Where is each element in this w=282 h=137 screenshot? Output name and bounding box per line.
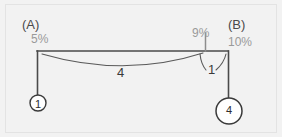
- percent-label-middle: 9%: [192, 27, 209, 39]
- support-label-a: (A): [22, 18, 39, 31]
- support-label-b: (B): [228, 18, 245, 31]
- short-span-arc-left: [200, 54, 206, 70]
- diagram-figure: (A) (B) 5% 9% 10% 4 1 1 4: [0, 0, 282, 137]
- percent-label-right: 10%: [228, 36, 252, 48]
- node-left-label: 1: [30, 99, 46, 110]
- long-span-arc: [42, 53, 203, 66]
- span-label-long: 4: [117, 66, 124, 79]
- short-span-arc-right: [216, 54, 226, 70]
- percent-label-left: 5%: [31, 33, 48, 45]
- node-right-label: 4: [219, 105, 239, 116]
- span-label-short: 1: [208, 63, 215, 76]
